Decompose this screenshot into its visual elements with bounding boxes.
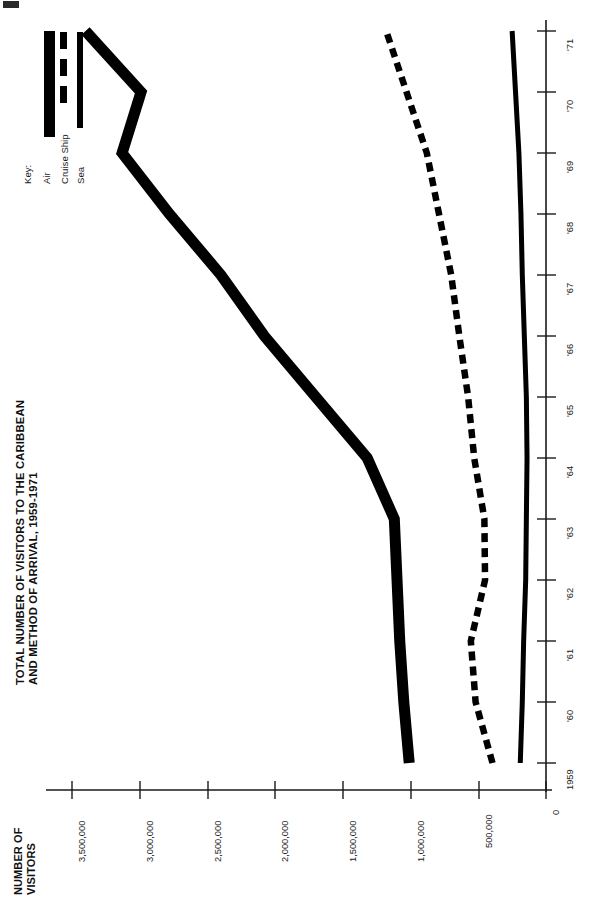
year-label-1968: '68: [565, 222, 575, 234]
year-label-1969: '69: [565, 161, 575, 173]
series-line-sea: [512, 31, 527, 763]
year-label-1970: '70: [565, 100, 575, 112]
year-label-1967: '67: [565, 283, 575, 295]
year-label-1965: '65: [565, 405, 575, 417]
year-label-1963: '63: [565, 527, 575, 539]
value-tick-label-3000000: 3,000,000: [145, 821, 155, 862]
value-tick-label-3500000: 3,500,000: [77, 821, 87, 862]
year-label-1971: '71: [565, 39, 575, 51]
value-tick-label-0: 0: [551, 810, 561, 815]
value-tick-label-1000000: 1,000,000: [416, 821, 426, 862]
plot-area: [0, 0, 596, 901]
year-label-1964: '64: [565, 466, 575, 478]
value-tick-label-500000: 500,000: [484, 814, 494, 848]
year-label-1959: 1959: [565, 769, 575, 790]
chart-figure: Key: Air Cruise Ship Sea TOTAL NUMBER OF…: [0, 0, 596, 901]
year-label-1966: '66: [565, 344, 575, 356]
value-tick-label-2500000: 2,500,000: [213, 821, 223, 862]
year-label-1961: '61: [565, 649, 575, 661]
series-line-air: [86, 31, 410, 763]
value-tick-label-1500000: 1,500,000: [348, 821, 358, 862]
year-label-1960: '60: [565, 710, 575, 722]
value-tick-label-2000000: 2,000,000: [280, 821, 290, 862]
year-label-1962: '62: [565, 588, 575, 600]
